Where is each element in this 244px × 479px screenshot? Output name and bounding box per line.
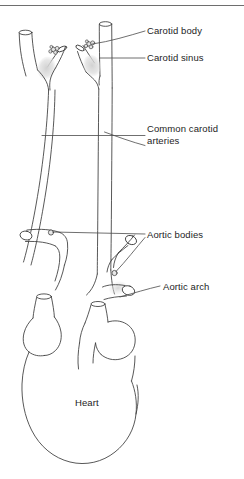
right-carotid-bifurcation	[75, 22, 112, 274]
leader-aortic-bodies-left	[53, 232, 146, 234]
heart	[22, 294, 138, 464]
label-carotid-sinus: Carotid sinus	[147, 52, 204, 64]
leader-common-carotid-lower	[105, 132, 146, 146]
anatomical-figure: Carotid body Carotid sinus Common caroti…	[0, 0, 244, 479]
anatomy-illustration	[0, 0, 244, 479]
label-carotid-body: Carotid body	[147, 25, 202, 37]
label-common-carotid-arteries: Common carotid arteries	[147, 123, 218, 146]
label-heart: Heart	[75, 397, 99, 409]
label-aortic-arch: Aortic arch	[163, 281, 209, 293]
left-carotid-body	[49, 45, 59, 54]
left-carotid-sinus-shading	[35, 55, 58, 82]
right-carotid-body	[84, 40, 94, 49]
leader-carotid-body	[93, 31, 146, 44]
label-aortic-bodies: Aortic bodies	[147, 229, 203, 241]
aortic-body-left-nodule	[48, 230, 53, 235]
